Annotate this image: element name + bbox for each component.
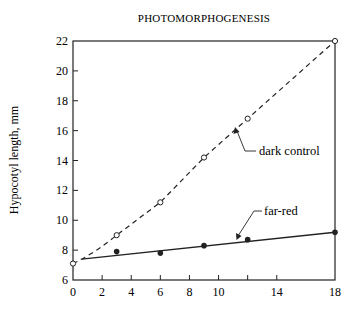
y-tick-label: 18 <box>56 94 68 108</box>
data-point-dark-control <box>114 233 119 238</box>
y-axis-ticks: 6810121416182022 <box>56 34 78 287</box>
x-tick-label: 2 <box>99 285 105 299</box>
data-point-far-red <box>158 250 164 256</box>
y-tick-label: 20 <box>56 64 68 78</box>
y-tick-label: 10 <box>56 213 68 227</box>
chart: PHOTOMORPHOGENESIS Hypocotyl length, mm … <box>0 0 362 314</box>
annotation-label-dark-control: dark control <box>259 144 320 158</box>
y-tick-label: 6 <box>62 273 68 287</box>
x-axis-ticks: 02468101418 <box>70 275 341 299</box>
data-point-dark-control <box>332 38 337 43</box>
data-point-far-red <box>114 249 120 255</box>
annotation-dark-control: dark control <box>234 127 321 158</box>
x-tick-label: 8 <box>186 285 192 299</box>
y-tick-label: 12 <box>56 183 68 197</box>
annotation-leader-far-red <box>238 211 262 236</box>
arrowhead-icon <box>234 127 240 134</box>
chart-title: PHOTOMORPHOGENESIS <box>138 12 270 24</box>
data-point-dark-control <box>245 116 250 121</box>
x-tick-label: 18 <box>329 285 341 299</box>
series-line-far-red <box>82 232 335 259</box>
y-axis-label: Hypocotyl length, mm <box>7 105 21 214</box>
annotation-label-far-red: far-red <box>264 204 298 218</box>
data-point-far-red <box>201 243 207 249</box>
data-point-far-red <box>332 229 338 235</box>
annotation-leader-dark-control <box>237 131 256 151</box>
annotation-far-red: far-red <box>236 204 298 240</box>
data-point-dark-control <box>70 261 75 266</box>
data-point-dark-control <box>158 200 163 205</box>
data-point-dark-control <box>201 155 206 160</box>
x-tick-label: 0 <box>70 285 76 299</box>
x-tick-label: 14 <box>271 285 283 299</box>
y-tick-label: 14 <box>56 154 68 168</box>
x-tick-label: 6 <box>157 285 163 299</box>
y-tick-label: 8 <box>62 243 68 257</box>
data-point-far-red <box>245 237 251 243</box>
y-tick-label: 16 <box>56 124 68 138</box>
x-tick-label: 10 <box>213 285 225 299</box>
x-tick-label: 4 <box>128 285 134 299</box>
y-tick-label: 22 <box>56 34 68 48</box>
